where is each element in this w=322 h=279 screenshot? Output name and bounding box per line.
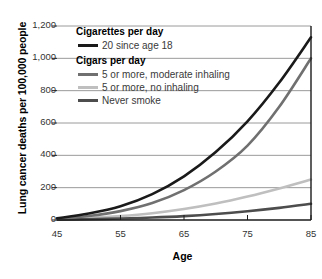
- legend-group-heading: Cigarettes per day: [76, 26, 246, 38]
- chart-figure: Lung cancer deaths per 100,000 people 02…: [0, 0, 322, 279]
- legend-item-label: 5 or more, no inhaling: [102, 82, 199, 94]
- legend-color-swatch-icon: [78, 73, 98, 77]
- legend-item[interactable]: Never smoke: [78, 94, 246, 107]
- x-tick-label: 45: [42, 228, 72, 239]
- chart-legend: Cigarettes per day20 since age 18Cigars …: [76, 26, 246, 107]
- legend-item[interactable]: 5 or more, moderate inhaling: [78, 68, 246, 81]
- legend-color-swatch-icon: [78, 44, 98, 48]
- legend-item-label: 20 since age 18: [102, 40, 173, 52]
- legend-color-swatch-icon: [78, 86, 98, 90]
- legend-color-swatch-icon: [78, 99, 98, 103]
- x-tick-label: 65: [169, 228, 199, 239]
- x-tick-label: 55: [106, 228, 136, 239]
- x-axis-title: Age: [55, 250, 310, 262]
- x-tick-label: 85: [296, 228, 322, 239]
- legend-item-label: Never smoke: [102, 95, 161, 107]
- x-tick-label: 75: [233, 228, 263, 239]
- legend-item-label: 5 or more, moderate inhaling: [102, 69, 230, 81]
- legend-item[interactable]: 20 since age 18: [78, 39, 246, 52]
- legend-group-heading: Cigars per day: [76, 55, 246, 67]
- legend-item[interactable]: 5 or more, no inhaling: [78, 81, 246, 94]
